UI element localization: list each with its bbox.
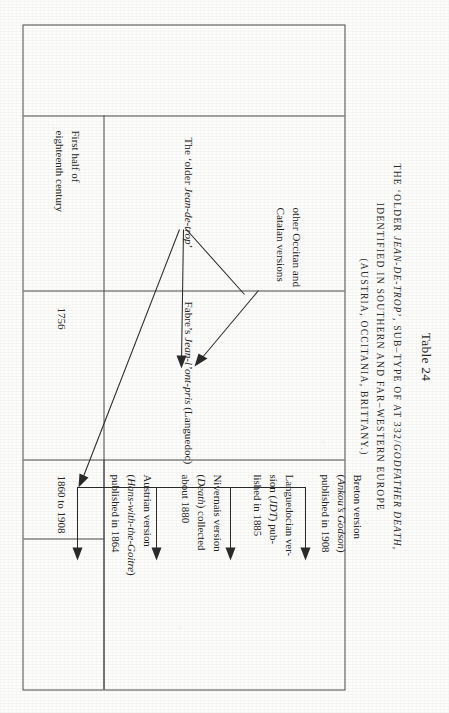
nivernais-line-2: (Death) collected bbox=[192, 474, 208, 649]
nivernais-line-3: about 1880 bbox=[176, 474, 192, 649]
languedocian-line-2: sion (JDT) pub- bbox=[264, 474, 280, 634]
table-rule-vertical-1 bbox=[23, 115, 344, 116]
date-cell-1756: 1756 bbox=[52, 307, 68, 427]
caption-seg-3: , bbox=[391, 546, 402, 550]
date-line-2: eighteenth century bbox=[50, 130, 66, 280]
caption-seg-2: ’, SUB–TYPE OF AT 332/ bbox=[391, 313, 402, 443]
languedocian-italic: JDT bbox=[267, 499, 279, 518]
table-rule-horizontal-right-upper bbox=[103, 459, 104, 689]
nivernais-line-1: Nivernais version bbox=[208, 474, 224, 649]
caption-seg-1: THE ‘OLDER bbox=[391, 163, 402, 235]
nivernais-italic: Death bbox=[195, 478, 207, 505]
node-text-post: ’ bbox=[182, 244, 194, 248]
node-other-occitan-catalan: other Occitan and Catalan versions bbox=[271, 207, 304, 337]
node-older-jean-de-trop: The ‘older Jean-de-trop’ bbox=[180, 137, 196, 287]
node-breton-version: Breton version (Ankou’s Godson) publishe… bbox=[316, 474, 364, 644]
scanned-page: Table 24 THE ‘OLDER JEAN-DE-TROP’, SUB–T… bbox=[0, 0, 449, 713]
fabre-pre: Fabre’s bbox=[182, 301, 194, 337]
caption-line-2: IDENTIFIED IN SOUTHERN AND FAR–WESTERN E… bbox=[371, 0, 388, 713]
node-text-italic: Jean-de-trop bbox=[182, 187, 194, 244]
caption-line-1: THE ‘OLDER JEAN-DE-TROP’, SUB–TYPE OF AT… bbox=[388, 0, 405, 713]
caption-italic-godfather-death: GODFATHER DEATH bbox=[391, 443, 402, 546]
table-number: Table 24 bbox=[417, 0, 433, 713]
breton-line-3: published in 1908 bbox=[316, 474, 332, 644]
node-nivernais-version: Nivernais version (Death) collected abou… bbox=[176, 474, 224, 649]
node-languedocian-version: Languedocian ver- sion (JDT) pub- lished… bbox=[248, 474, 296, 634]
fabre-post: (Languedoc) bbox=[182, 404, 194, 464]
date-line-1: First half of bbox=[66, 130, 82, 280]
languedocian-line-3: lished in 1885 bbox=[248, 474, 264, 634]
table-frame: First half of eighteenth century 1756 18… bbox=[22, 24, 345, 690]
breton-line-2: (Ankou’s Godson) bbox=[332, 474, 348, 644]
date-cell-1860-1908: 1860 to 1908 bbox=[52, 475, 68, 615]
austrian-line-2: (Hans-with-the-Goitre) bbox=[122, 474, 138, 654]
breton-line-1: Breton version bbox=[348, 474, 364, 644]
languedocian-line-1: Languedocian ver- bbox=[280, 474, 296, 634]
node-austrian-version: Austrian version (Hans-with-the-Goitre) … bbox=[106, 474, 154, 654]
languedocian-line-2-post: ) pub- bbox=[267, 517, 279, 543]
occitan-line-2: Catalan versions bbox=[271, 207, 287, 337]
austrian-line-1: Austrian version bbox=[138, 474, 154, 654]
nivernais-line-2-post: ) collected bbox=[195, 504, 207, 550]
table-title-block: Table 24 THE ‘OLDER JEAN-DE-TROP’, SUB–T… bbox=[355, 0, 434, 713]
date-cell-first-half-18c: First half of eighteenth century bbox=[50, 130, 82, 280]
caption-italic-jean-de-trop: JEAN-DE-TROP bbox=[391, 235, 402, 313]
rotated-sheet: Table 24 THE ‘OLDER JEAN-DE-TROP’, SUB–T… bbox=[0, 0, 449, 713]
fabre-italic: Jean-l’ont-pris bbox=[182, 337, 194, 404]
node-text-pre: The ‘older bbox=[182, 137, 194, 187]
languedocian-line-2-pre: sion ( bbox=[267, 474, 279, 499]
austrian-italic: Hans-with-the-Goitre bbox=[125, 478, 137, 572]
breton-italic: Ankou’s Godson bbox=[335, 478, 347, 549]
austrian-line-3: published in 1864 bbox=[106, 474, 122, 654]
occitan-line-1: other Occitan and bbox=[288, 207, 304, 337]
